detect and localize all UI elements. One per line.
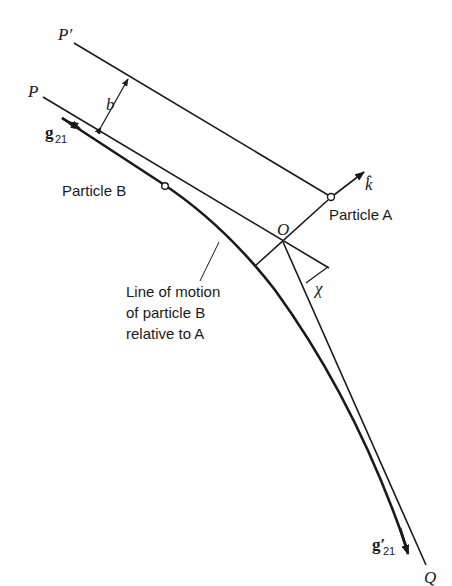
label-o: O bbox=[277, 220, 289, 239]
scattering-diagram: P′ P b g 21 Particle B Particle A O k̂ χ… bbox=[0, 0, 452, 586]
label-g21-subscript: 21 bbox=[55, 133, 67, 145]
label-p-prime: P′ bbox=[57, 25, 72, 44]
label-b: b bbox=[106, 95, 115, 114]
annotation-line-2: of particle B bbox=[126, 304, 205, 321]
g21-prime-arrow bbox=[400, 528, 408, 554]
line-o-to-a bbox=[255, 200, 328, 266]
label-g21-prime-subscript: 21 bbox=[383, 545, 395, 557]
label-particle-a: Particle A bbox=[329, 206, 392, 223]
annotation-line-3: relative to A bbox=[126, 325, 204, 342]
label-k-hat: k̂ bbox=[365, 175, 373, 194]
particle-a-marker bbox=[328, 194, 335, 201]
annotation-line-1: Line of motion bbox=[126, 283, 220, 300]
line-o-to-q bbox=[283, 242, 426, 565]
label-particle-b: Particle B bbox=[62, 182, 126, 199]
label-q: Q bbox=[424, 568, 436, 586]
label-p: P bbox=[27, 82, 38, 101]
annotation-leader-line bbox=[200, 242, 219, 281]
label-g21: g bbox=[45, 123, 54, 142]
particle-b-marker bbox=[162, 183, 169, 190]
k-hat-arrow bbox=[334, 172, 364, 195]
label-chi: χ bbox=[313, 279, 323, 298]
line-p-prime bbox=[74, 43, 328, 195]
